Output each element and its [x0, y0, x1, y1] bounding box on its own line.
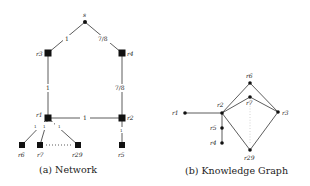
kg-node-r29: [248, 148, 252, 152]
edge-label-r2-r5: 1: [120, 128, 123, 133]
kg-node-r1: [183, 111, 187, 115]
edge-label-r1-r29: 1: [58, 124, 61, 129]
kg-node-r2: [220, 111, 224, 115]
edge-label-r4-r2: 7/8: [115, 84, 125, 91]
edge-label-r1-r7: 1: [43, 124, 46, 129]
kg-label-r29: r29: [244, 154, 255, 161]
knowledge-graph-labels: r1 r2 r6 r7 r3 r29 r5 r4: [172, 72, 289, 161]
label-r5: r5: [118, 151, 125, 158]
node-r1: [45, 115, 52, 122]
kg-label-r5: r5: [210, 124, 217, 131]
node-r29: [75, 142, 81, 148]
kg-label-r2: r2: [217, 101, 224, 108]
kg-label-r4: r4: [210, 139, 217, 146]
figure-canvas: 1 7/8 1 7/8 1 1 1 1 1 s r3 r4 r1 r2 r6 r…: [0, 0, 310, 186]
kg-edge-r2-r29: [222, 113, 250, 150]
edge-label-s-r4: 7/8: [98, 35, 108, 42]
edge-label-r1-r6: 1: [34, 124, 37, 129]
node-r7: [37, 142, 43, 148]
node-r4: [119, 50, 126, 57]
edge-label-r3-r1: 1: [46, 84, 50, 91]
kg-node-r3: [276, 110, 280, 114]
node-r6: [19, 142, 25, 148]
node-s: [83, 20, 87, 24]
node-r3: [45, 50, 52, 57]
kg-edge-r6-r3: [250, 83, 278, 112]
edge-label-s-r3: 1: [65, 35, 69, 42]
label-r1: r1: [36, 111, 43, 118]
label-r7: r7: [37, 151, 44, 158]
knowledge-graph-nodes: [183, 81, 280, 152]
label-r4: r4: [127, 50, 134, 57]
label-r29: r29: [72, 151, 83, 158]
kg-label-r1: r1: [172, 109, 179, 116]
label-r3: r3: [36, 50, 43, 57]
kg-node-r6: [248, 81, 252, 85]
kg-label-r7: r7: [246, 99, 253, 106]
label-s: s: [83, 11, 86, 18]
kg-node-r4: [220, 141, 224, 145]
kg-edge-r29-r3: [250, 112, 278, 150]
knowledge-graph-diagram: [185, 83, 278, 150]
kg-edge-r7-r3: [250, 97, 278, 112]
node-r5: [119, 142, 125, 148]
kg-edge-r2-r6: [222, 83, 250, 113]
edge-label-r1-r2: 1: [83, 114, 87, 121]
node-r2: [119, 115, 126, 122]
kg-label-r6: r6: [246, 72, 253, 79]
caption-network: (a) Network: [39, 164, 97, 175]
kg-node-r5: [220, 126, 224, 130]
label-r6: r6: [18, 151, 25, 158]
kg-label-r3: r3: [282, 109, 289, 116]
label-r2: r2: [127, 114, 134, 121]
caption-knowledge-graph: (b) Knowledge Graph: [185, 165, 288, 176]
